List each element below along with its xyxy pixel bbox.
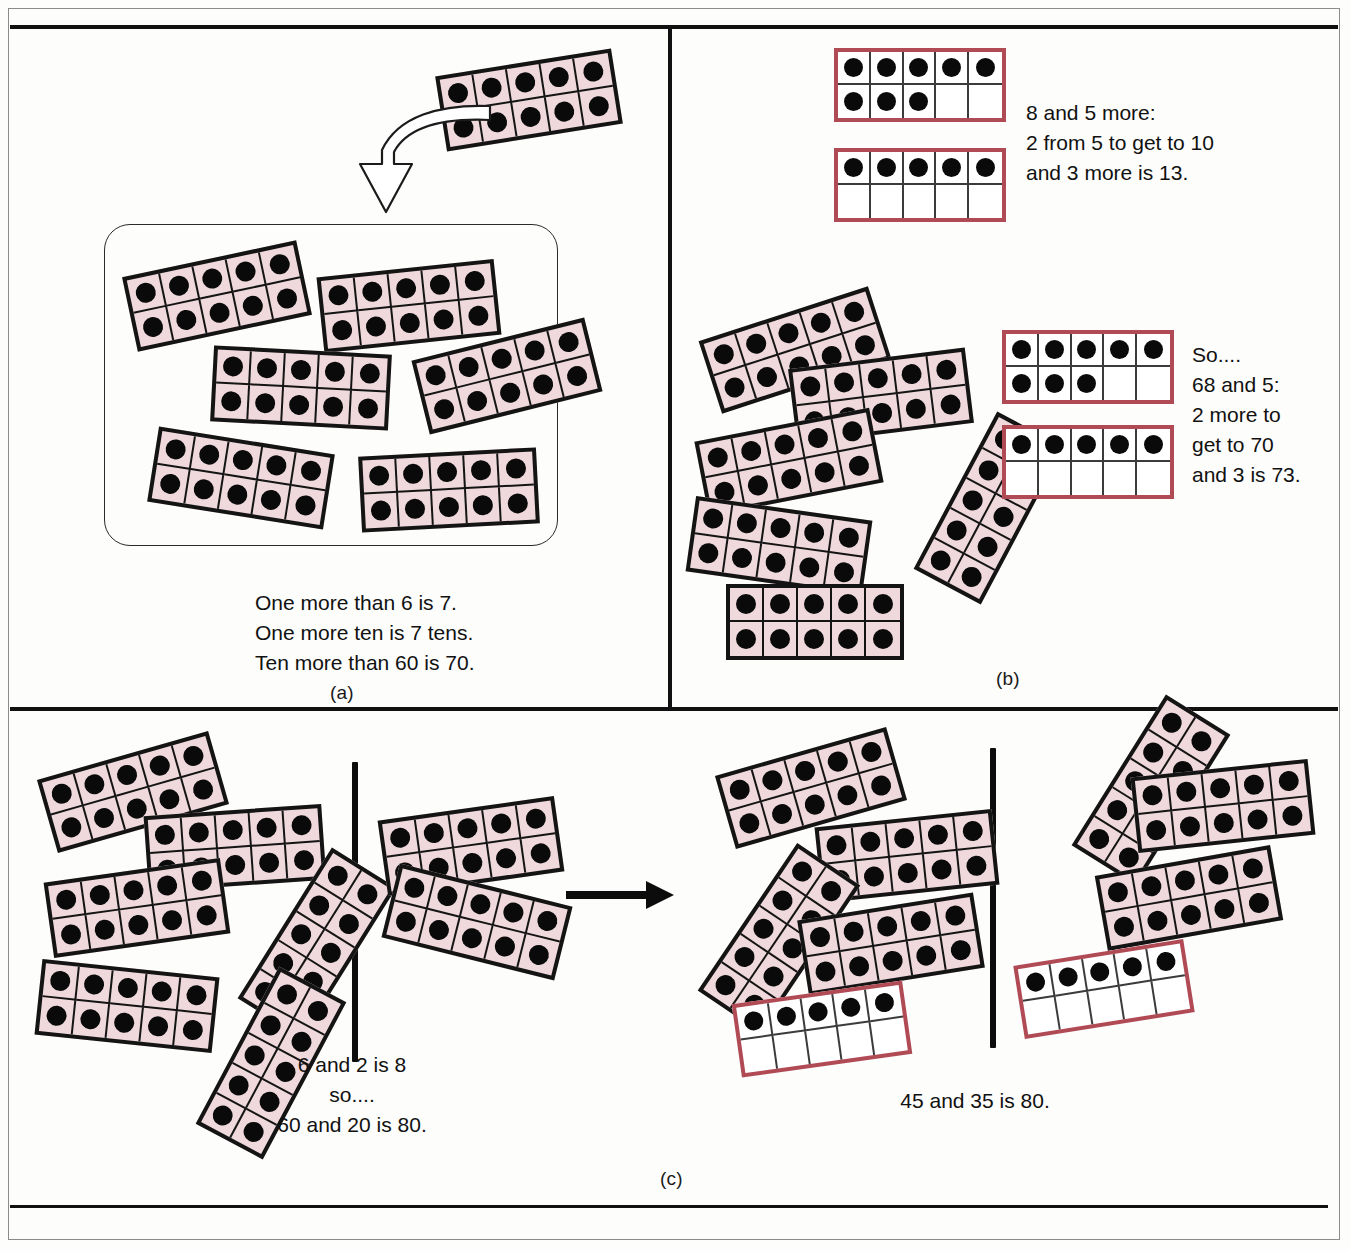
ten-frame-cell	[871, 1018, 908, 1055]
counter-dot	[1122, 956, 1144, 978]
counter-dot	[328, 284, 350, 306]
counter-dot	[141, 315, 165, 339]
ten-frame-cell	[1172, 895, 1211, 934]
counter-dot	[847, 454, 870, 477]
ten-frame-cell	[432, 489, 468, 525]
counter-dot	[55, 888, 78, 911]
counter-dot	[1145, 819, 1167, 841]
ten-frame-cell	[148, 818, 184, 854]
counter-dot	[461, 852, 484, 875]
counter-dot	[873, 594, 893, 614]
counter-dot	[331, 319, 353, 341]
counter-dot	[838, 526, 861, 549]
ten-frame-cell	[110, 970, 147, 1007]
counter-dot	[1173, 869, 1196, 892]
counter-dot	[760, 963, 788, 991]
ten-frame-cell	[969, 152, 1002, 185]
ten-frame-cell	[1105, 907, 1144, 946]
counter-dot	[208, 301, 232, 325]
counter-dot	[1241, 857, 1264, 880]
ten-frame-cell	[252, 481, 291, 520]
counter-dot	[191, 869, 214, 892]
counter-dot	[949, 939, 972, 962]
counter-dot	[317, 939, 345, 967]
ten-frame-cell	[157, 431, 196, 470]
counter-dot	[535, 909, 559, 933]
counter-dot	[587, 95, 610, 118]
counter-dot	[117, 977, 139, 999]
counter-dot	[507, 493, 528, 514]
ten-frame-cell	[757, 544, 795, 582]
ten-frame-cell	[792, 368, 830, 406]
counter-dot	[958, 563, 985, 590]
counter-dot	[480, 76, 503, 99]
ten-frame-cell	[1006, 462, 1039, 495]
counter-dot	[154, 824, 175, 845]
ten-frame-cell	[1169, 774, 1206, 811]
counter-dot	[863, 866, 885, 888]
counter-dot	[275, 287, 299, 311]
counter-dot	[1278, 770, 1300, 792]
ten-frame-cell	[426, 301, 463, 338]
counter-dot	[877, 158, 896, 177]
counter-dot	[1146, 909, 1169, 932]
ten-frame-cell	[1206, 889, 1245, 928]
counter-dot	[498, 381, 522, 405]
counter-dot	[258, 852, 279, 873]
ten-frame-cell	[182, 815, 218, 851]
counter-dot	[760, 768, 785, 793]
ten-frame-grid	[1006, 334, 1170, 400]
ten-frame-cell	[908, 936, 947, 975]
ten-frame-cell	[936, 152, 969, 185]
counter-dot	[167, 274, 191, 298]
counter-dot	[744, 331, 769, 356]
ten-frame-cell	[887, 820, 924, 857]
ten-frame-cell	[832, 622, 866, 656]
counter-dot	[803, 521, 826, 544]
ten-frame-cell	[82, 877, 120, 915]
ten-frame-cell	[364, 493, 400, 529]
ten-frame-cell	[1137, 462, 1170, 495]
counter-dot	[931, 858, 953, 880]
counter-dot	[813, 461, 836, 484]
ten-frame-cell	[871, 85, 904, 118]
ten-frame-cell	[838, 152, 871, 185]
counter-dot	[1045, 435, 1064, 454]
ten-frame-cell	[1172, 808, 1209, 845]
counter-dot	[731, 943, 759, 971]
counter-dot	[395, 277, 417, 299]
counter-dot	[122, 879, 145, 902]
counter-dot	[370, 500, 391, 521]
ten-frame-cell	[1240, 801, 1277, 838]
ten-frame-cell	[318, 355, 354, 391]
counter-dot	[582, 60, 605, 83]
counter-dot	[300, 459, 323, 482]
counter-dot	[737, 811, 762, 836]
ten-frame-cell	[1274, 797, 1311, 834]
counter-dot	[1155, 951, 1177, 973]
counter-dot	[241, 294, 265, 318]
ten-frame-cell	[115, 872, 153, 910]
counter-dot	[519, 106, 542, 129]
counter-dot	[909, 910, 932, 933]
counter-dot	[942, 158, 961, 177]
ten-frame-cell	[382, 819, 420, 857]
counter-dot	[174, 308, 198, 332]
ten-frame-cell	[764, 622, 798, 656]
ten-frame-cell	[904, 52, 937, 85]
counter-dot	[92, 806, 117, 831]
counter-dot	[472, 495, 493, 516]
ten-frame-cell	[1104, 334, 1137, 367]
ten-frame-cell	[1055, 992, 1093, 1030]
ten-frame-empty	[834, 48, 1006, 122]
ten-frame-cell	[853, 824, 890, 861]
counter-dot	[359, 363, 380, 384]
counter-dot	[1025, 971, 1047, 993]
counter-dot	[780, 467, 803, 490]
counter-dot	[289, 394, 310, 415]
ten-frame-cell	[819, 828, 856, 865]
counter-dot	[731, 547, 754, 570]
counter-dot	[424, 363, 448, 387]
counter-dot	[287, 921, 315, 949]
ten-frame-cell	[1236, 767, 1273, 804]
